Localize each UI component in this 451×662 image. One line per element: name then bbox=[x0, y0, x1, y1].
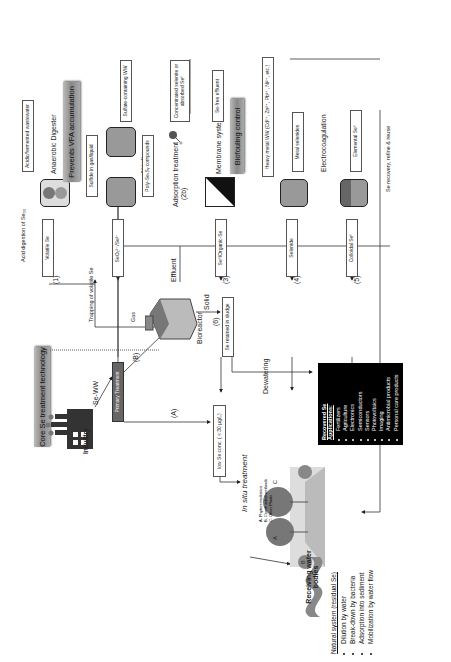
se-ww-label: Se-WW bbox=[92, 381, 99, 405]
sludge-box: Se retained in sludge bbox=[222, 297, 234, 357]
biofouling-banner: Biofouling control bbox=[230, 99, 244, 174]
gas-label: Gas bbox=[130, 312, 136, 322]
natural-system-title: Natural system (residual Se) bbox=[330, 534, 337, 654]
natural-item: Dilution by water bbox=[339, 534, 348, 644]
poly-se-box: Poly-SeₓSᵧ compounds bbox=[142, 135, 154, 197]
step-2b-label: (2b) bbox=[180, 188, 187, 200]
prevents-vfa-banner: Prevents VFA accumulation bbox=[63, 82, 80, 182]
app-item: Imaging bbox=[378, 368, 385, 431]
electrocoagulation-title: Electrocoagulation bbox=[320, 114, 327, 172]
organic-se-box: Se⁰/Organic-Se bbox=[215, 219, 227, 277]
app-item: Fertilizers bbox=[335, 368, 342, 431]
anaerobic-digester-title: Anaerobic Digester bbox=[50, 114, 57, 174]
path-a-label: (A) bbox=[170, 409, 177, 418]
receiving-water-label: Receiving water bodies bbox=[305, 547, 319, 607]
app-item: Agriculture bbox=[342, 368, 349, 431]
selenide-box: Selenide bbox=[286, 219, 298, 277]
industry-label: Industry bbox=[82, 428, 89, 454]
app-item: Semiconductors bbox=[357, 368, 364, 431]
selenite-box: SeO₃²⁻/Se²⁻ bbox=[112, 219, 124, 277]
sulfate-ww-box: Sulfate-containing WW bbox=[120, 60, 132, 122]
dewatering-label: Dewatering bbox=[262, 359, 269, 394]
natural-item: Mobilization by water flow bbox=[366, 534, 375, 644]
low-conc-box: low Se conc. ( < 30 µg/L) bbox=[213, 405, 226, 477]
app-item: Antimicrobial products bbox=[385, 368, 392, 431]
recovery-line-label: Se recovery, refine & reuse bbox=[385, 126, 391, 192]
sulfide-box: Sulfide in gas/liquid bbox=[86, 135, 98, 197]
metal-selenides-box: Metal selenides bbox=[292, 112, 304, 172]
in-situ-marker-a: A bbox=[272, 536, 278, 540]
app-item: Photovoltaics bbox=[371, 368, 378, 431]
recovered-applications-box: Recovered Se Applications: Fertilizers A… bbox=[318, 363, 403, 445]
effluent-label: Effluent bbox=[170, 258, 177, 282]
membrane-title: Membrane system bbox=[215, 116, 222, 174]
trap-volatile-label: Trapping of volatile Se bbox=[88, 267, 94, 322]
acid-digestion-label: Acid digestion of Se₀₀ bbox=[20, 209, 26, 262]
concentrated-selenite-box: Concentrated selenite or absorbed Se⁰ bbox=[170, 60, 190, 122]
volatile-se-box: Volatile Se bbox=[42, 219, 54, 277]
bioreactor-icon bbox=[145, 294, 200, 344]
recovered-title: Recovered Se Applications: bbox=[321, 368, 333, 440]
acidic-wastewater-box: Acidic/fermented wastewater bbox=[22, 100, 34, 172]
app-item: Personal care products bbox=[393, 368, 400, 431]
membrane-unit-icon bbox=[205, 177, 235, 207]
path-b-label: (B) bbox=[132, 353, 139, 362]
solid-label: Solid bbox=[203, 294, 210, 310]
legend-item: C. Other Plants bbox=[268, 479, 273, 522]
adsorbent-molecule-icon bbox=[168, 130, 184, 146]
natural-system-list: Natural system (residual Se) Dilution by… bbox=[330, 534, 375, 654]
app-item: Electronics bbox=[349, 368, 356, 431]
elemental-se-box: Elemental Se⁰ bbox=[350, 110, 362, 172]
abiotic-reactor-unit-1 bbox=[106, 177, 136, 207]
heavy-metal-ww-box: Heavy metal WW (Cd²⁺, Zn²⁺, Pb²⁺, Ni²⁺, … bbox=[262, 57, 274, 177]
heavy-metal-reactor-unit bbox=[280, 179, 308, 207]
primary-treatment-box: Primary Treatment bbox=[112, 362, 124, 422]
diagram-canvas: Core Se treatment technology Industry Se… bbox=[0, 0, 451, 662]
step-6-label: (6) bbox=[212, 317, 219, 326]
se-free-effluent-box: Se-free effluent bbox=[212, 70, 224, 122]
natural-item: Adsorption into sediment bbox=[357, 534, 366, 644]
in-situ-legend: A. Phytoremediation B. Constructed wetla… bbox=[258, 479, 273, 522]
app-item: Sensors bbox=[364, 368, 371, 431]
electrocoagulation-unit bbox=[340, 179, 368, 207]
natural-item: Break-down by bacteria bbox=[348, 534, 357, 644]
anaerobic-digester-unit bbox=[40, 179, 70, 207]
adsorption-title: Adsorption treatment bbox=[172, 142, 179, 207]
in-situ-title: In situ treatment bbox=[240, 455, 249, 512]
bioreactor-label: Bioreactor bbox=[196, 312, 203, 344]
colloidal-se-box: Colloidal Se⁰ bbox=[346, 219, 358, 277]
abiotic-reactor-unit-2 bbox=[106, 127, 136, 157]
